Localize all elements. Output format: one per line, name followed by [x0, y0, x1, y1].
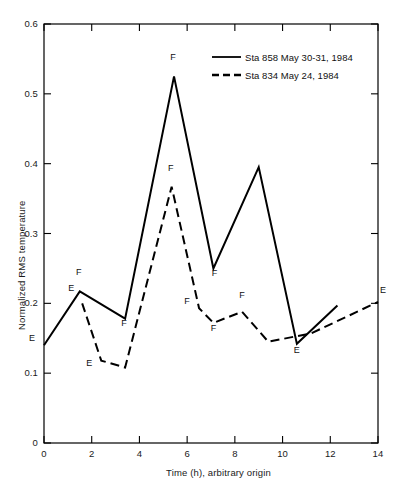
chart-figure: 00.10.20.30.40.50.6 02468101214 EFFFFEEE…	[0, 0, 397, 486]
legend-swatches	[212, 57, 241, 75]
x-axis-title: Time (h), arbitrary origin	[20, 467, 397, 478]
point-label-f: F	[180, 296, 194, 306]
point-label-f: F	[206, 323, 220, 333]
point-label-f: F	[164, 163, 178, 173]
point-label-e: E	[376, 285, 390, 295]
legend-label-series-1: Sta 858 May 30-31, 1984	[245, 52, 353, 63]
series-line-2	[82, 187, 378, 368]
point-label-f: F	[235, 290, 249, 300]
x-tick-label: 0	[32, 448, 56, 459]
x-tick-label: 4	[127, 448, 151, 459]
x-tick-label: 10	[271, 448, 295, 459]
point-label-f: F	[72, 267, 86, 277]
point-label-e: E	[25, 333, 39, 343]
x-tick-label: 2	[80, 448, 104, 459]
point-label-f: F	[117, 318, 131, 328]
x-tick-label: 14	[366, 448, 390, 459]
tick-marks	[44, 24, 378, 443]
point-label-e: E	[64, 283, 78, 293]
point-label-e: E	[290, 345, 304, 355]
point-label-f: F	[207, 268, 221, 278]
axis-frame	[44, 24, 378, 443]
point-label-f: F	[166, 52, 180, 62]
x-tick-label: 12	[318, 448, 342, 459]
x-tick-label: 8	[223, 448, 247, 459]
y-tick-label: 0	[4, 437, 38, 448]
legend-label-series-2: Sta 834 May 24, 1984	[245, 70, 339, 81]
x-tick-label: 6	[175, 448, 199, 459]
y-tick-label: 0.6	[4, 18, 38, 29]
y-tick-label: 0.5	[4, 88, 38, 99]
y-axis-title: Normalized RMS temperature	[16, 200, 27, 330]
point-label-e: E	[82, 358, 96, 368]
y-tick-label: 0.1	[4, 367, 38, 378]
y-tick-label: 0.4	[4, 158, 38, 169]
